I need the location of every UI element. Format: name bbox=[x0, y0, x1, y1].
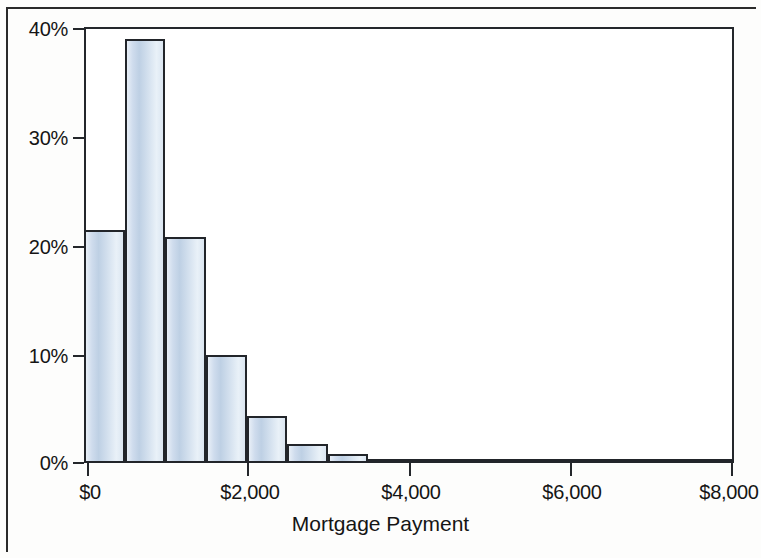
y-tick-mark-0 bbox=[73, 462, 84, 464]
bar-bin-15 bbox=[653, 459, 694, 463]
scanned-page: 40% 30% 20% 10% 0% bbox=[0, 0, 761, 558]
bar-bin-5 bbox=[247, 416, 288, 463]
y-tick-mark-10 bbox=[73, 355, 84, 357]
x-tick-mark-2000 bbox=[247, 463, 249, 476]
x-tick-mark-4000 bbox=[409, 463, 411, 476]
bar-bin-10 bbox=[450, 459, 491, 463]
x-tick-label-4000: $4,000 bbox=[381, 481, 440, 504]
y-tick-label-40: 40% bbox=[29, 18, 68, 41]
bar-bin-16 bbox=[693, 459, 734, 463]
bar-bin-6 bbox=[287, 444, 328, 463]
bar-bin-11 bbox=[490, 459, 531, 463]
x-tick-label-0: $0 bbox=[79, 481, 101, 504]
y-tick-label-30: 30% bbox=[29, 127, 68, 150]
x-tick-label-2000: $2,000 bbox=[220, 481, 279, 504]
bar-bin-9 bbox=[409, 459, 450, 463]
x-tick-label-8000: $8,000 bbox=[699, 481, 758, 504]
y-tick-mark-20 bbox=[73, 246, 84, 248]
y-tick-label-10: 10% bbox=[29, 345, 68, 368]
y-tick-mark-40 bbox=[73, 28, 84, 30]
histogram-chart: 40% 30% 20% 10% 0% bbox=[0, 0, 761, 558]
bar-bin-7 bbox=[328, 454, 369, 463]
bar-bin-13 bbox=[572, 459, 613, 463]
bar-bin-1 bbox=[84, 230, 125, 463]
y-tick-label-0: 0% bbox=[40, 452, 68, 475]
x-axis-title: Mortgage Payment bbox=[0, 512, 761, 536]
x-tick-mark-8000 bbox=[731, 463, 733, 476]
x-tick-label-6000: $6,000 bbox=[542, 481, 601, 504]
bar-bin-2 bbox=[125, 39, 166, 463]
bar-series bbox=[84, 27, 734, 463]
y-axis-labels: 40% 30% 20% 10% 0% bbox=[0, 0, 68, 558]
y-tick-label-20: 20% bbox=[29, 236, 68, 259]
x-tick-mark-0 bbox=[87, 463, 89, 476]
bar-bin-3 bbox=[165, 237, 206, 463]
y-tick-mark-30 bbox=[73, 137, 84, 139]
bar-bin-14 bbox=[612, 459, 653, 463]
bar-bin-8 bbox=[368, 459, 409, 463]
bar-bin-12 bbox=[531, 459, 572, 463]
x-tick-mark-6000 bbox=[570, 463, 572, 476]
bar-bin-4 bbox=[206, 355, 247, 463]
